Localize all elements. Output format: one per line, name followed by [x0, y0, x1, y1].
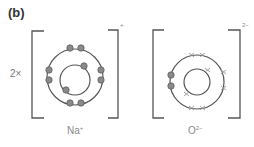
electron-cross: [184, 92, 189, 96]
na-left-bracket: [32, 31, 44, 118]
o-ion: [168, 53, 226, 110]
electron-cross: [205, 68, 210, 72]
o-ion-label: O2−: [188, 125, 203, 136]
electron-dot: [46, 67, 52, 73]
electron-dot: [67, 45, 73, 51]
o-transferred-electrons: [168, 72, 174, 89]
na-ion: [46, 45, 104, 106]
electron-dot: [168, 83, 174, 89]
electron-dot: [81, 63, 87, 69]
o-bracket-charge: 2−: [242, 22, 249, 28]
na-right-bracket: [108, 30, 118, 118]
o-charge: 2−: [196, 125, 203, 131]
o-outer-shell: [170, 55, 224, 109]
o-inner-shell: [184, 69, 210, 95]
electron-dot: [98, 77, 104, 83]
electron-dot: [63, 87, 69, 93]
electron-dot: [98, 67, 104, 73]
ionic-bonding-diagram: [0, 0, 254, 147]
electron-dot: [168, 72, 174, 78]
electron-dot: [67, 100, 73, 106]
na-charge: +: [80, 125, 84, 131]
o-brackets: [153, 30, 240, 118]
o-right-bracket: [228, 30, 240, 118]
electron-dot: [78, 100, 84, 106]
o-left-bracket: [153, 30, 164, 118]
na-ion-label: Na+: [67, 125, 83, 136]
na-bracket-charge: +: [120, 22, 124, 28]
o-electron-crosses: [184, 53, 226, 110]
electron-dot: [46, 77, 52, 83]
na-outer-shell: [47, 49, 103, 105]
o-symbol: O: [188, 125, 196, 136]
na-symbol: Na: [67, 125, 80, 136]
electron-dot: [78, 45, 84, 51]
